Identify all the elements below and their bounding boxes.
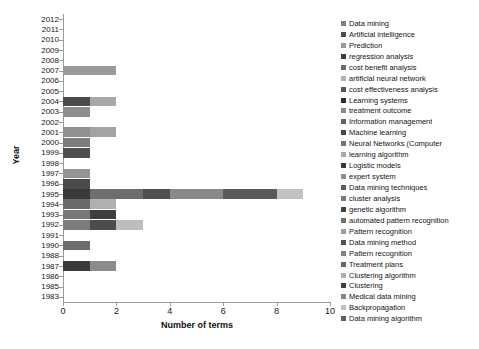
bar-segment [63,210,90,220]
legend-item[interactable]: Data mining algorithm [341,313,479,324]
legend-item[interactable]: artificial neural network [341,73,479,84]
plot-area [63,14,330,302]
legend-label: treatment outcome [349,106,412,115]
bar-segment [223,189,276,199]
legend-item[interactable]: Data mining techniques [341,182,479,193]
legend-item[interactable]: regression analysis [341,51,479,62]
legend-swatch-icon [341,152,346,157]
legend-item[interactable]: cost benefit analysis [341,62,479,73]
legend-label: cost benefit analysis [349,63,417,72]
bar-row [63,179,90,189]
bar-row [63,66,116,76]
bar-row [63,241,90,251]
bar-segment [143,189,170,199]
bar-row [63,148,90,158]
bar-segment [90,97,117,107]
legend-label: automated pattern recognition [349,216,449,225]
bar-segment [63,148,90,158]
y-tick-label: 2003 [5,107,59,116]
x-axis-line [63,302,331,303]
legend-label: artificial neural network [349,74,426,83]
legend-swatch-icon [341,207,346,212]
legend-swatch-icon [341,108,346,113]
legend-item[interactable]: Treatment plans [341,259,479,270]
y-tick-label: 1992 [5,220,59,229]
legend-item[interactable]: learning algorithm [341,149,479,160]
legend-item[interactable]: cost effectiveness analysis [341,84,479,95]
legend-item[interactable]: Artificial intelligence [341,29,479,40]
legend-swatch-icon [341,130,346,135]
legend-item[interactable]: Logistic models [341,160,479,171]
legend-item[interactable]: Medical data mining [341,291,479,302]
bar-segment [63,189,90,199]
x-tick-label: 4 [167,306,172,317]
legend-item[interactable]: Pattern recognition [341,248,479,259]
legend-item[interactable]: Clustering algorithm [341,270,479,281]
legend-item[interactable]: Clustering [341,281,479,292]
y-tick-label: 2010 [5,35,59,44]
legend-swatch-icon [341,196,346,201]
legend-label: genetic algorithm [349,205,406,214]
x-axis-title: Number of terms [63,320,331,330]
y-tick-label: 1983 [5,292,59,301]
legend-item[interactable]: Data mining [341,18,479,29]
bar-segment [63,220,90,230]
legend-swatch-icon [341,65,346,70]
legend-item[interactable]: Pattern recognition [341,226,479,237]
legend-item[interactable]: expert system [341,171,479,182]
legend-item[interactable]: treatment outcome [341,106,479,117]
legend-swatch-icon [341,141,346,146]
bar-segment [90,261,117,271]
bar-segment [63,199,90,209]
y-tick-label: 2011 [5,25,59,34]
y-tick-label: 1988 [5,251,59,260]
legend-swatch-icon [341,316,346,321]
legend-item[interactable]: Prediction [341,40,479,51]
legend-swatch-icon [341,283,346,288]
bar-segment [63,241,90,251]
y-tick-label: 2012 [5,15,59,24]
legend-label: Data mining algorithm [349,314,422,323]
bar-segment [63,66,116,76]
legend-swatch-icon [341,185,346,190]
legend-item[interactable]: cluster analysis [341,193,479,204]
legend-item[interactable]: Data mining method [341,237,479,248]
legend-swatch-icon [341,273,346,278]
legend-item[interactable]: Information management [341,116,479,127]
legend-label: Learning systems [349,96,408,105]
legend-item[interactable]: genetic algorithm [341,204,479,215]
legend-item[interactable]: Machine learning [341,127,479,138]
y-tick-label: 2009 [5,46,59,55]
y-axis-title: Year [11,125,21,185]
x-tick-label: 8 [274,306,279,317]
legend-label: Prediction [349,41,382,50]
legend-label: expert system [349,172,396,181]
bar-chart: 2012201120102009200820072006200520042003… [0,0,479,349]
bar-row [63,107,90,117]
legend-swatch-icon [341,76,346,81]
legend-label: Clustering algorithm [349,271,416,280]
legend-swatch-icon [341,262,346,267]
legend-item[interactable]: Learning systems [341,95,479,106]
y-tick-label: 1990 [5,241,59,250]
legend-swatch-icon [341,21,346,26]
legend-swatch-icon [341,174,346,179]
bar-segment [90,199,117,209]
bar-row [63,169,90,179]
legend-label: Treatment plans [349,260,403,269]
legend-label: Clustering [349,281,383,290]
legend-item[interactable]: automated pattern recognition [341,215,479,226]
x-tick-label: 10 [325,306,335,317]
legend-swatch-icon [341,119,346,124]
y-tick-label: 2008 [5,56,59,65]
legend-swatch-icon [341,98,346,103]
bar-row [63,210,116,220]
legend-swatch-icon [341,305,346,310]
bar-row [63,220,143,230]
legend-item[interactable]: Neural Networks (Computer [341,138,479,149]
bar-segment [170,189,223,199]
bar-row [63,199,116,209]
y-tick-label: 1987 [5,262,59,271]
legend-item[interactable]: Backpropagation [341,302,479,313]
bar-segment [63,107,90,117]
